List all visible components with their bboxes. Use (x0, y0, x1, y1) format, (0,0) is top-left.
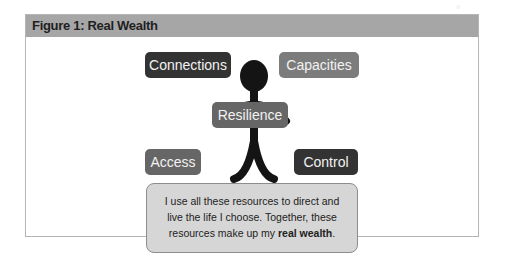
note-line-3-suffix: . (332, 227, 335, 239)
note-line-3: resources make up my real wealth. (147, 225, 357, 241)
resilience-box: Resilience (212, 102, 288, 128)
access-box: Access (145, 149, 201, 175)
corner-mark: ○ (456, 3, 466, 11)
control-box: Control (294, 149, 358, 175)
note-line-2: live the life I choose. Together, these (147, 209, 357, 225)
real-wealth-note: I use all these resources to direct and … (146, 183, 358, 253)
capacities-box: Capacities (279, 52, 359, 78)
note-line-3-prefix: resources make up my (169, 227, 278, 239)
figure-frame: Figure 1: Real Wealth Connections Capaci… (25, 14, 479, 237)
connections-box: Connections (145, 52, 231, 78)
note-real-wealth-bold: real wealth (278, 227, 332, 239)
note-line-1: I use all these resources to direct and (147, 193, 357, 209)
